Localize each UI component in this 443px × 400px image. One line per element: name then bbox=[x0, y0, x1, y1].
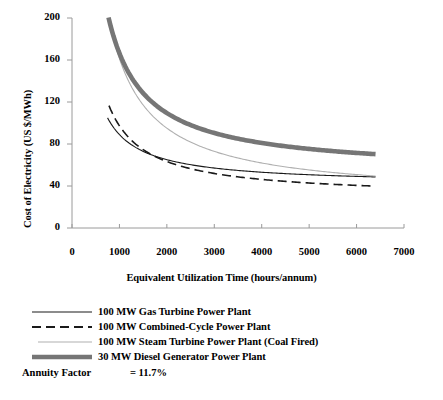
legend-item: 30 MW Diesel Generator Power Plant bbox=[0, 349, 443, 364]
x-tick-label: 0 bbox=[47, 246, 97, 257]
legend-items: 100 MW Gas Turbine Power Plant100 MW Com… bbox=[0, 304, 443, 364]
legend-item: 100 MW Gas Turbine Power Plant bbox=[0, 304, 443, 319]
y-tick-label: 0 bbox=[20, 221, 60, 232]
y-tick-label: 120 bbox=[20, 95, 60, 106]
x-axis-title: Equivalent Utilization Time (hours/annum… bbox=[0, 272, 443, 283]
annuity-factor-note: Annuity Factor= 11.7% bbox=[22, 367, 442, 378]
x-tick-label: 3000 bbox=[189, 246, 239, 257]
x-tick-label: 4000 bbox=[237, 246, 287, 257]
x-tick-label: 1000 bbox=[94, 246, 144, 257]
x-tick-label: 2000 bbox=[142, 246, 192, 257]
legend-item: 100 MW Steam Turbine Power Plant (Coal F… bbox=[0, 334, 443, 349]
series-line-0 bbox=[108, 118, 376, 177]
x-tick-label: 6000 bbox=[332, 246, 382, 257]
y-tick-label: 80 bbox=[20, 137, 60, 148]
legend-label: 100 MW Combined-Cycle Power Plant bbox=[98, 321, 270, 332]
chart-legend: 100 MW Gas Turbine Power Plant100 MW Com… bbox=[0, 304, 443, 400]
y-axis-title: Cost of Electricity (US $/MWh) bbox=[22, 90, 33, 228]
x-tick-label: 7000 bbox=[379, 246, 429, 257]
annuity-factor-value: = 11.7% bbox=[130, 367, 167, 378]
legend-label: 30 MW Diesel Generator Power Plant bbox=[98, 351, 266, 362]
legend-swatch-icon bbox=[32, 350, 92, 364]
y-tick-label: 40 bbox=[20, 179, 60, 190]
annuity-factor-label: Annuity Factor bbox=[22, 367, 130, 378]
legend-item: 100 MW Combined-Cycle Power Plant bbox=[0, 319, 443, 334]
series-line-1 bbox=[109, 106, 376, 186]
chart-plot-region: Cost of Electricity (US $/MWh) Equivalen… bbox=[0, 0, 443, 300]
y-tick-label: 160 bbox=[20, 53, 60, 64]
series-layer bbox=[108, 18, 376, 187]
legend-swatch-icon bbox=[32, 320, 92, 334]
legend-swatch-icon bbox=[38, 335, 92, 349]
x-tick-label: 5000 bbox=[284, 246, 334, 257]
cost-of-electricity-figure: Cost of Electricity (US $/MWh) Equivalen… bbox=[0, 0, 443, 400]
legend-swatch-icon bbox=[32, 305, 92, 319]
legend-label: 100 MW Steam Turbine Power Plant (Coal F… bbox=[98, 336, 318, 347]
y-tick-label: 200 bbox=[20, 11, 60, 22]
series-line-3 bbox=[109, 18, 376, 155]
legend-label: 100 MW Gas Turbine Power Plant bbox=[98, 306, 251, 317]
